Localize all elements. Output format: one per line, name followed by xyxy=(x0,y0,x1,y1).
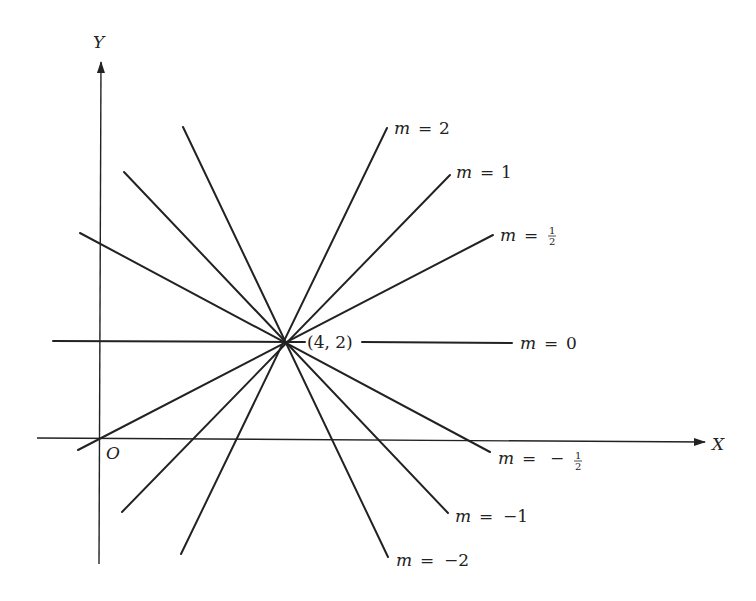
svg-text:1: 1 xyxy=(575,450,581,461)
label-slope-neg-2: m = −2 xyxy=(396,550,469,570)
y-axis-label: Y xyxy=(93,32,106,52)
line-slope-0-right xyxy=(362,342,512,343)
x-axis xyxy=(37,438,705,442)
svg-text:2: 2 xyxy=(549,236,555,247)
svg-text:m: m xyxy=(394,118,410,138)
svg-text:m: m xyxy=(455,506,471,526)
origin-label: O xyxy=(106,443,120,463)
svg-text:m: m xyxy=(500,225,516,245)
point-label: (4, 2) xyxy=(307,332,353,352)
svg-text:−: − xyxy=(550,448,564,468)
svg-text:=: = xyxy=(522,448,536,468)
line-slope-0-left xyxy=(53,341,287,342)
svg-text:m: m xyxy=(396,550,412,570)
svg-text:=: = xyxy=(480,162,494,182)
label-slope-neg-1: m = −1 xyxy=(455,506,528,526)
svg-text:m: m xyxy=(520,333,536,353)
svg-text:−1: −1 xyxy=(503,506,528,526)
svg-text:=: = xyxy=(479,506,493,526)
svg-text:m: m xyxy=(456,162,472,182)
slope-family-diagram: Y X O (4, 2) m = 2 m = 1 m xyxy=(0,0,756,601)
label-slope-2: m = 2 xyxy=(394,118,450,138)
svg-text:1: 1 xyxy=(549,225,555,236)
label-slope-0: m = 0 xyxy=(520,333,577,353)
svg-text:2: 2 xyxy=(575,461,581,472)
x-axis-label: X xyxy=(710,434,725,454)
svg-text:m: m xyxy=(498,448,514,468)
label-slope-half: m = 1 2 xyxy=(500,225,556,247)
label-slope-neg-half: m = − 1 2 xyxy=(498,448,582,472)
svg-text:2: 2 xyxy=(439,118,450,138)
svg-text:1: 1 xyxy=(501,162,512,182)
svg-text:=: = xyxy=(418,118,432,138)
svg-text:−2: −2 xyxy=(444,550,469,570)
svg-text:=: = xyxy=(420,550,434,570)
label-slope-1: m = 1 xyxy=(456,162,512,182)
svg-text:=: = xyxy=(544,333,558,353)
y-axis xyxy=(99,62,101,564)
svg-text:0: 0 xyxy=(566,333,577,353)
svg-text:=: = xyxy=(524,225,538,245)
